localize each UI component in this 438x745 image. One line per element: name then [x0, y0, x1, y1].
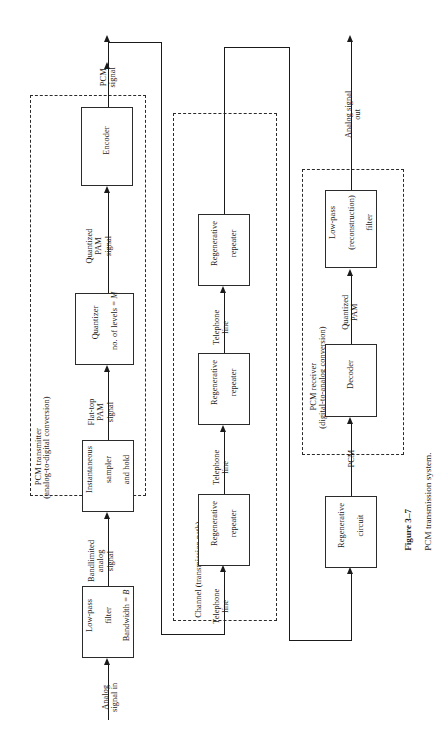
label-flat-top-pam-signal: Flat-top PAM signal: [87, 379, 115, 445]
block-regenerative-repeater-2: Regenerative repeater: [198, 353, 250, 425]
block-encoder: Encoder: [81, 107, 133, 186]
arrowhead-flat-top-pam: [104, 365, 110, 372]
arrowhead-into-regen-circuit: [347, 567, 353, 574]
block-regenerative-circuit: Regenerative circuit: [325, 496, 377, 568]
label-quantized-pam-signal: Quantized PAM signal: [85, 209, 113, 283]
block-regenerative-repeater-3: Regenerative repeater: [198, 214, 250, 286]
arrowhead-pcm-signal-upper: [104, 35, 110, 42]
block-reconstruction-filter: Low-pass (reconstruction) filter: [325, 190, 377, 268]
label-quantized-pam-rx: Quantized PAM: [341, 279, 360, 345]
figure-caption: Figure 3–7 PCM transmission system.: [393, 390, 438, 560]
arrowhead-quantized-pam-rx: [347, 269, 353, 276]
figure-caption-text: PCM transmission system.: [423, 453, 433, 551]
block-quantizer: Quantizer no. of levels = M: [75, 293, 134, 365]
block-decoder: Decoder: [325, 344, 377, 417]
arrowhead-bandlimited: [104, 512, 110, 519]
group-pcm-transmitter-sublabel: (analog-to-digital conversion): [42, 415, 51, 499]
label-bandlimited-analog-signal: Bandlimited analog signal: [87, 524, 115, 598]
block-regenerative-circuit-label: Regenerative circuit: [328, 499, 374, 565]
block-regenerative-repeater-2-label: Regenerative repeater: [201, 356, 247, 422]
label-analog-signal-in: Analog signal in: [101, 662, 120, 732]
connector-tx-to-channel-top: [108, 42, 162, 43]
label-pcm-in: PCM: [347, 436, 356, 482]
block-regenerative-repeater-1-label: Regenerative repeater: [201, 497, 247, 563]
block-regenerative-repeater-3-label: Regenerative repeater: [201, 217, 247, 283]
label-analog-signal-out: Analog signal out: [344, 71, 363, 157]
block-low-pass-filter-label: Low-pass filter Bandwidth = B: [76, 589, 141, 655]
connector-tx-to-channel-down: [161, 42, 162, 635]
block-instantaneous-sampler: Instantaneous sampler and hold: [82, 440, 134, 512]
block-encoder-label: Encoder: [93, 117, 121, 177]
arrowhead-quantized-pam: [104, 186, 110, 193]
block-decoder-label: Decoder: [337, 351, 365, 411]
connector-channel-to-rx-top: [224, 47, 290, 48]
figure-number: Figure 3–7: [403, 509, 413, 551]
block-quantizer-label: Quantizer no. of levels = M: [81, 295, 127, 363]
arrowhead-analog-out: [347, 35, 353, 42]
connector-channel-to-rx-down: [289, 47, 290, 641]
group-pcm-receiver-label: PCM receiver: [309, 345, 318, 429]
label-telephone-line-3: Telephone line: [212, 292, 231, 362]
connector-into-regen-circuit: [351, 574, 352, 640]
block-instantaneous-sampler-label: Instantaneous sampler and hold: [76, 443, 141, 509]
connector-channel-out-up: [224, 47, 225, 214]
label-pcm-signal: PCM signal: [99, 48, 118, 106]
label-telephone-line-2: Telephone line: [212, 432, 231, 502]
block-reconstruction-filter-label: Low-pass (reconstruction) filter: [319, 193, 384, 265]
arrowhead-telephone-line-2: [220, 425, 226, 432]
arrowhead-pcm-into-decoder: [347, 417, 353, 424]
block-regenerative-repeater-1: Regenerative repeater: [198, 494, 250, 566]
label-telephone-line-1: Telephone line: [212, 571, 231, 641]
connector-channel-to-rx-bottom: [289, 640, 352, 641]
